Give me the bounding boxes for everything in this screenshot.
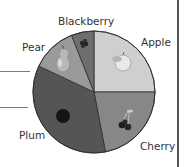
label-cherry: Cherry [140,140,175,152]
label-plum: Plum [19,129,45,141]
pie-slices [33,31,155,153]
pie-chart: Blackberry Apple Pear Plum Cherry [0,0,186,167]
label-apple: Apple [141,36,171,48]
label-pear: Pear [22,41,45,53]
plum-icon [56,109,70,123]
right-panel-border [177,0,179,167]
label-blackberry: Blackberry [58,15,114,27]
guide-line-lower [0,107,28,108]
guide-line-upper [0,71,30,72]
